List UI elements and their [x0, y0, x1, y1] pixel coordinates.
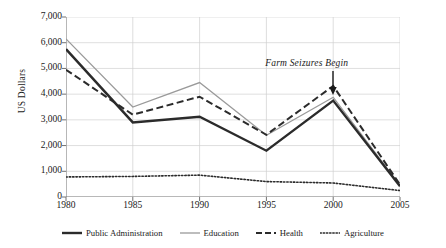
y-tick-label: 1,000 [24, 167, 62, 177]
axis-tick-marks [58, 13, 408, 208]
legend-swatch-solid-thin [180, 229, 200, 237]
y-tick-label: 4,000 [24, 89, 62, 99]
legend-label: Public Administration [86, 228, 163, 238]
legend-item-public-administration[interactable]: Public Administration [62, 228, 163, 238]
legend-swatch-solid-thick [62, 229, 82, 237]
annotation-arrow-down-icon [326, 71, 340, 96]
legend-label: Health [280, 228, 303, 238]
annotation-label: Farm Seizures Begin [265, 58, 348, 68]
y-tick-label: 5,000 [24, 64, 62, 74]
legend-swatch-dashed [256, 229, 276, 237]
legend-swatch-dotted [320, 229, 340, 237]
line-chart: US Dollars 0 1,000 2,000 3,000 4,000 5,0… [0, 0, 446, 248]
legend-label: Education [204, 228, 239, 238]
y-tick-label: 3,000 [24, 115, 62, 125]
y-axis-tick-labels: 0 1,000 2,000 3,000 4,000 5,000 6,000 7,… [20, 0, 62, 248]
legend-item-agriculture[interactable]: Agriculture [320, 228, 384, 238]
legend-label: Agriculture [344, 228, 384, 238]
legend-item-education[interactable]: Education [180, 228, 239, 238]
y-tick-label: 2,000 [24, 141, 62, 151]
y-tick-label: 6,000 [24, 38, 62, 48]
legend-item-health[interactable]: Health [256, 228, 303, 238]
chart-legend: Public Administration Education Health A… [0, 228, 446, 238]
y-tick-label: 7,000 [24, 12, 62, 22]
